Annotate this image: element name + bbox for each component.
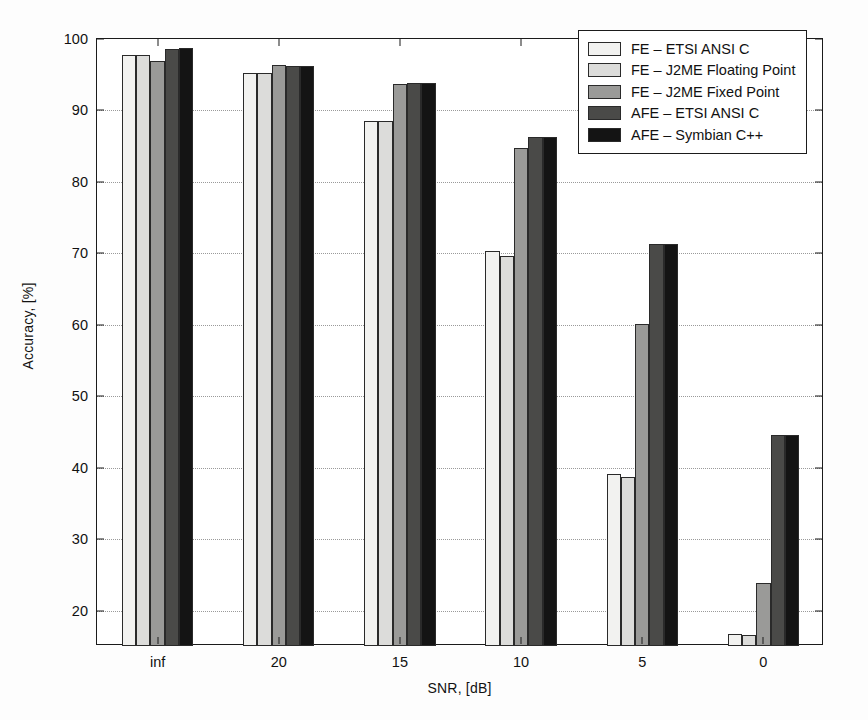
legend-swatch-icon: [588, 106, 621, 120]
bar: [742, 635, 756, 646]
bar: [257, 73, 271, 646]
x-tick-label: inf: [150, 644, 165, 670]
bar: [286, 66, 300, 646]
bar: [635, 324, 649, 646]
y-tick-mark: [815, 110, 822, 111]
x-tick-mark: [763, 637, 764, 644]
x-tick-mark: [157, 637, 158, 644]
legend-item: FE – J2ME Fixed Point: [588, 81, 795, 103]
bar: [136, 55, 150, 646]
legend-item: FE – ETSI ANSI C: [588, 38, 795, 60]
y-tick-mark: [815, 610, 822, 611]
legend-item-label: AFE – Symbian C++: [631, 128, 763, 143]
y-tick-label: 100: [64, 31, 97, 47]
bar: [165, 49, 179, 646]
bar: [485, 251, 499, 646]
bar: [122, 55, 136, 646]
y-tick-mark: [97, 610, 104, 611]
y-tick-label: 50: [72, 388, 97, 404]
y-tick-mark: [97, 39, 104, 40]
y-tick-mark: [815, 467, 822, 468]
legend-item-label: FE – J2ME Floating Point: [631, 63, 795, 78]
x-tick-mark: [278, 637, 279, 644]
legend-swatch-icon: [588, 85, 621, 99]
legend: FE – ETSI ANSI CFE – J2ME Floating Point…: [578, 30, 807, 154]
y-tick-mark: [97, 396, 104, 397]
legend-item-label: FE – ETSI ANSI C: [631, 42, 749, 57]
legend-item: FE – J2ME Floating Point: [588, 60, 795, 82]
legend-swatch-icon: [588, 42, 621, 56]
y-tick-mark: [815, 181, 822, 182]
legend-item: AFE – Symbian C++: [588, 124, 795, 146]
y-tick-label: 90: [72, 102, 97, 118]
bar: [393, 84, 407, 646]
x-tick-mark: [399, 39, 400, 46]
y-tick-mark: [815, 253, 822, 254]
bar: [179, 48, 193, 646]
x-tick-mark: [157, 39, 158, 46]
legend-item: AFE – ETSI ANSI C: [588, 103, 795, 125]
x-tick-mark: [521, 39, 522, 46]
bar: [664, 244, 678, 646]
y-tick-label: 20: [72, 603, 97, 619]
bar: [300, 66, 314, 646]
y-tick-label: 70: [72, 245, 97, 261]
x-tick-label: 5: [638, 644, 646, 670]
bar: [514, 148, 528, 646]
bar: [528, 137, 542, 646]
y-tick-mark: [97, 181, 104, 182]
y-axis-label: Accuracy, [%]: [20, 236, 36, 416]
bar: [785, 435, 799, 646]
legend-item-label: AFE – ETSI ANSI C: [631, 106, 759, 121]
y-tick-mark: [97, 110, 104, 111]
bar: [272, 65, 286, 646]
y-tick-mark: [97, 253, 104, 254]
bar: [243, 73, 257, 646]
y-tick-label: 60: [72, 317, 97, 333]
bar: [421, 83, 435, 646]
y-tick-label: 80: [72, 174, 97, 190]
bar: [378, 121, 392, 646]
x-tick-mark: [521, 637, 522, 644]
x-tick-mark: [278, 39, 279, 46]
bar: [771, 435, 785, 646]
x-tick-mark: [642, 637, 643, 644]
bar: [649, 244, 663, 646]
y-tick-label: 40: [72, 460, 97, 476]
x-tick-label: 0: [759, 644, 767, 670]
x-tick-mark: [399, 637, 400, 644]
x-tick-label: 10: [513, 644, 529, 670]
bar: [500, 256, 514, 646]
y-tick-mark: [97, 467, 104, 468]
bar: [728, 634, 742, 646]
bar: [621, 477, 635, 646]
y-tick-mark: [97, 324, 104, 325]
figure: Accuracy, [%] SNR, [dB] 2030405060708090…: [0, 0, 868, 720]
bar: [407, 83, 421, 646]
y-tick-mark: [97, 539, 104, 540]
bar: [150, 61, 164, 646]
legend-item-label: FE – J2ME Fixed Point: [631, 85, 779, 100]
y-tick-mark: [815, 396, 822, 397]
bar: [543, 137, 557, 646]
bar: [364, 121, 378, 646]
y-tick-mark: [815, 539, 822, 540]
x-axis-label: SNR, [dB]: [96, 680, 823, 696]
y-tick-label: 30: [72, 531, 97, 547]
legend-swatch-icon: [588, 128, 621, 142]
y-tick-mark: [815, 39, 822, 40]
y-tick-mark: [815, 324, 822, 325]
legend-swatch-icon: [588, 63, 621, 77]
x-tick-label: 20: [271, 644, 287, 670]
x-tick-label: 15: [392, 644, 408, 670]
bar: [607, 474, 621, 646]
